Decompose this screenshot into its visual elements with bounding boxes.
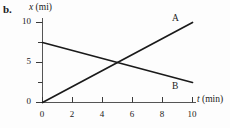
y-axis-ticks xyxy=(36,23,43,103)
data-lines xyxy=(43,23,193,103)
series-label-a: A xyxy=(172,13,179,23)
x-axis-ticks xyxy=(43,97,193,103)
line-series-b xyxy=(43,43,193,83)
plot-area xyxy=(0,0,230,128)
series-label-b: B xyxy=(172,81,178,91)
figure-panel: b. x (mi) t (min) 10 5 0 0 2 4 6 8 10 xyxy=(0,0,230,128)
